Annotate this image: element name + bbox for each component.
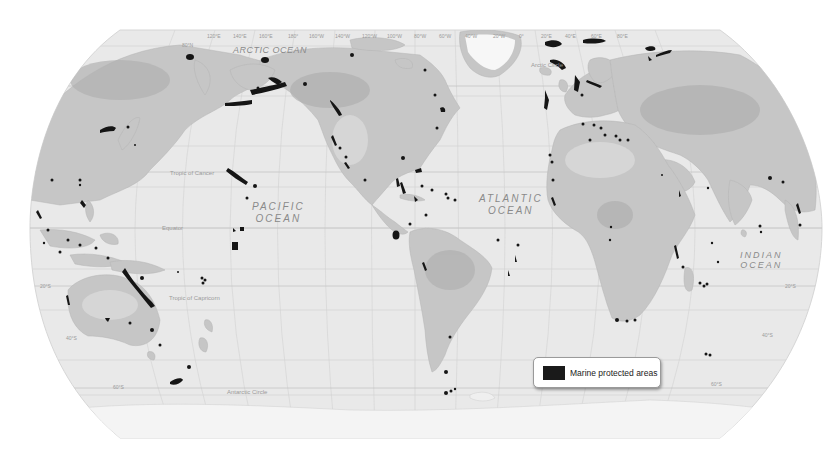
lat-tick-40s-left: 40°S xyxy=(66,335,77,341)
lon-tick-180: 180° xyxy=(288,33,298,39)
mpa-legend-swatch xyxy=(543,366,565,380)
lon-tick-100w: 100°W xyxy=(387,33,402,39)
lat-tick-20s-left: 20°S xyxy=(40,283,51,289)
lon-tick-140e: 140°E xyxy=(233,33,247,39)
pacific-ocean-label-line1: PACIFIC xyxy=(252,201,305,213)
pacific-ocean-label-line2: OCEAN xyxy=(252,213,305,225)
mpa-legend-label: Marine protected areas xyxy=(570,368,657,378)
lon-tick-60e: 60°E xyxy=(591,33,602,39)
antarctic-circle-label: Antarctic Circle xyxy=(227,389,267,395)
lon-tick-20e: 20°E xyxy=(541,33,552,39)
atlantic-ocean-label-line2: OCEAN xyxy=(479,205,543,217)
lon-tick-120e: 120°E xyxy=(207,33,221,39)
indian-ocean-label-line1: INDIAN xyxy=(740,250,783,260)
lon-tick-120w: 120°W xyxy=(362,33,377,39)
lat-tick-60s-left: 60°S xyxy=(113,384,124,390)
arctic-circle-label: Arctic Circle xyxy=(531,62,563,68)
tropic-of-cancer-label: Tropic of Cancer xyxy=(170,170,214,176)
lon-tick-60w: 60°W xyxy=(439,33,451,39)
lat-tick-20s-right: 20°S xyxy=(785,283,796,289)
lon-tick-160w: 160°W xyxy=(309,33,324,39)
equator-label: Equator xyxy=(162,225,183,231)
lon-tick-140w: 140°W xyxy=(335,33,350,39)
lat-tick-60s-right: 60°S xyxy=(711,381,722,387)
atlantic-ocean-label: ATLANTIC OCEAN xyxy=(479,193,543,216)
atlantic-ocean-label-line1: ATLANTIC xyxy=(479,193,543,205)
pacific-ocean-label: PACIFIC OCEAN xyxy=(252,201,305,224)
map-legend: Marine protected areas xyxy=(533,357,661,388)
lon-tick-160e: 160°E xyxy=(259,33,273,39)
lon-tick-40w: 40°W xyxy=(465,33,477,39)
arctic-ocean-label: ARCTIC OCEAN xyxy=(233,45,307,55)
lon-tick-80e: 80°E xyxy=(617,33,628,39)
indian-ocean-label: INDIAN OCEAN xyxy=(740,250,783,271)
lon-tick-40e: 40°E xyxy=(565,33,576,39)
lon-tick-80w: 80°W xyxy=(414,33,426,39)
lat-tick-40s-right: 40°S xyxy=(762,332,773,338)
indian-ocean-label-line2: OCEAN xyxy=(740,260,783,270)
lon-tick-0: 0° xyxy=(519,33,524,39)
lat-tick-80n: 80°N xyxy=(182,42,193,48)
lon-tick-20w: 20°W xyxy=(493,33,505,39)
tropic-of-capricorn-label: Tropic of Capricorn xyxy=(169,295,220,301)
world-map xyxy=(0,0,827,454)
